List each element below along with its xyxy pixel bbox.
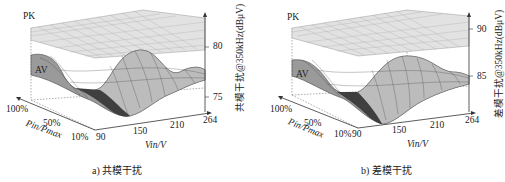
y-tick-10: 10% [71, 133, 88, 143]
x-tick-90: 90 [352, 130, 362, 140]
series-label-av: AV [35, 66, 48, 76]
panel-common-mode: PK AV 80 75 共模干扰@350kHz(dBμV) 90 150 210… [0, 0, 250, 182]
z-axis-label: 差模干扰@350kHz(dBμV) [491, 10, 505, 118]
y-tick-100: 100% [270, 105, 292, 115]
x-tick-90: 90 [96, 133, 106, 143]
caption: a) 共模干扰 [92, 162, 142, 177]
x-axis-label: Vin/V [145, 141, 166, 151]
y-tick-100: 100% [6, 105, 28, 115]
x-tick-264: 264 [203, 116, 217, 126]
z-tick-90: 90 [477, 25, 487, 35]
series-label-av: AV [296, 70, 309, 80]
x-tick-150: 150 [133, 127, 147, 137]
surface-plot-common-mode [0, 0, 250, 182]
z-tick-80: 80 [213, 42, 223, 52]
x-tick-264: 264 [465, 116, 479, 126]
z-tick-75: 75 [213, 93, 223, 103]
series-label-pk: PK [23, 12, 35, 22]
caption: b) 差模干扰 [361, 162, 412, 177]
panel-differential-mode: PK AV 90 85 差模干扰@350kHz(dBμV) 90 150 210… [252, 0, 502, 182]
series-label-pk: PK [287, 13, 299, 23]
x-tick-150: 150 [392, 126, 406, 136]
x-tick-210: 210 [430, 121, 444, 131]
z-tick-85: 85 [477, 72, 487, 82]
surface-plot-differential-mode [252, 0, 502, 182]
x-tick-210: 210 [170, 121, 184, 131]
z-axis-label: 共模干扰@350kHz(dBμV) [232, 4, 246, 112]
y-tick-10: 10% [334, 130, 351, 140]
x-axis-label: Vin/V [407, 140, 428, 150]
